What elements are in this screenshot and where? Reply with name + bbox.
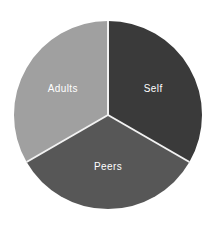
pie-label-adults: Adults <box>48 83 78 94</box>
pie-label-peers: Peers <box>94 161 122 172</box>
pie-chart-svg: SelfPeersAdults <box>0 0 213 226</box>
pie-label-self: Self <box>144 83 163 94</box>
pie-chart: SelfPeersAdults <box>0 0 213 226</box>
